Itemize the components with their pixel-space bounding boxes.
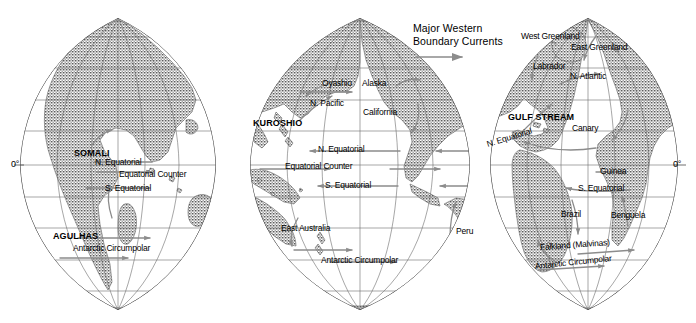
legend-title-line1: Major Western [413,22,482,35]
current-label-east-australia: East Australia [281,224,330,233]
current-label-atl-s-equatorial: S. Equatorial [578,184,624,193]
axis-label-left-equator: 0° [11,160,19,169]
current-label-labrador: Labrador [533,62,565,71]
current-label-gulf-stream: GULF STREAM [508,113,574,122]
ocean-currents-map: Major Western Boundary Currents 0° 0° SO… [0,0,696,323]
lobe-pacific [248,16,474,312]
current-label-alaska: Alaska [362,79,386,88]
legend-title-line2: Boundary Currents [413,35,503,48]
current-label-pac-equatorial-ctr: Equatorial Counter [285,162,352,171]
current-label-brazil: Brazil [561,210,581,219]
current-label-agulhas: AGULHAS [53,232,98,241]
current-label-n-pacific: N. Pacific [310,99,344,108]
current-label-pac-antarctic: Antarctic Circumpolar [321,256,398,265]
current-label-ind-antarctic: Antarctic Circumpolar [73,244,150,253]
current-label-west-greenland: West Greenland [521,32,579,41]
current-label-canary: Canary [572,124,598,133]
current-label-oyashio: Oyashio [322,79,352,88]
current-label-n-atlantic: N. Atlantic [570,72,606,81]
current-label-benguela: Benguela [611,211,645,220]
lobe-atlantic [488,16,682,312]
current-label-peru: Peru [456,227,473,236]
current-label-ind-n-equatorial: N. Equatorial [95,158,142,167]
current-label-california: California [363,108,397,117]
current-label-pac-s-equatorial: S. Equatorial [325,181,371,190]
current-label-kuroshio: KUROSHIO [253,119,302,128]
current-label-ind-equatorial-ctr: Equatorial Counter [119,170,186,179]
current-label-east-greenland: East Greenland [571,43,627,52]
current-label-ind-s-equatorial: S. Equatorial [105,184,151,193]
axis-label-right-equator: 0° [673,160,681,169]
current-label-guinea: Guinea [600,167,626,176]
current-label-pac-n-equatorial: N. Equatorial [318,145,365,154]
